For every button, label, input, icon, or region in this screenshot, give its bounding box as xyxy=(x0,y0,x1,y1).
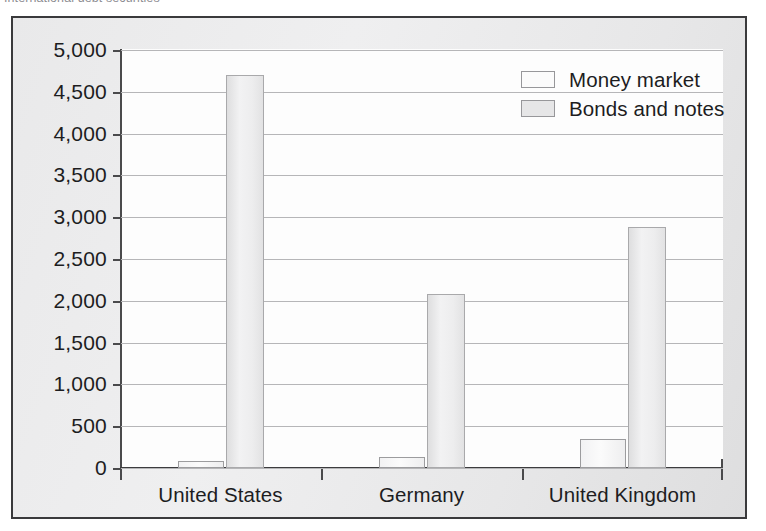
x-tick-mark xyxy=(321,469,323,480)
bar-united-kingdom-bonds-and-notes xyxy=(628,227,666,468)
x-tick-mark xyxy=(120,469,122,480)
y-tick-mark xyxy=(113,384,121,386)
y-tick-mark xyxy=(113,259,121,261)
y-tick-label: 2,000 xyxy=(53,289,107,313)
gridline xyxy=(120,217,723,218)
figure-caption-strip: International debt securities xyxy=(0,0,766,13)
x-category-label: United States xyxy=(158,483,282,507)
y-tick-label: 2,500 xyxy=(53,247,107,271)
bar-united-states-money-market xyxy=(178,461,224,468)
legend-item-money-market: Money market xyxy=(521,65,724,94)
y-tick-mark xyxy=(113,343,121,345)
legend-item-bonds-and-notes: Bonds and notes xyxy=(521,94,724,123)
y-tick-label: 5,000 xyxy=(53,38,107,62)
y-tick-label: 1,500 xyxy=(53,331,107,355)
y-tick-mark xyxy=(113,134,121,136)
y-tick-label: 4,500 xyxy=(53,80,107,104)
legend-swatch-icon xyxy=(521,100,555,117)
legend-label: Bonds and notes xyxy=(569,97,724,121)
x-tick-mark xyxy=(721,469,723,480)
chart-figure-frame: 05001,0001,5002,0002,5003,0003,5004,0004… xyxy=(11,16,747,519)
y-tick-label: 1,000 xyxy=(53,372,107,396)
x-category-label: United Kingdom xyxy=(549,483,696,507)
y-tick-label: 3,500 xyxy=(53,163,107,187)
y-tick-label: 500 xyxy=(71,414,107,438)
y-tick-label: 3,000 xyxy=(53,205,107,229)
legend-label: Money market xyxy=(569,68,700,92)
legend-swatch-icon xyxy=(521,71,555,88)
chart-legend: Money marketBonds and notes xyxy=(521,65,724,123)
y-tick-mark xyxy=(113,426,121,428)
gridline xyxy=(120,134,723,135)
y-tick-label: 0 xyxy=(95,456,107,480)
y-tick-mark xyxy=(113,217,121,219)
gridline xyxy=(120,175,723,176)
gridline xyxy=(120,50,723,51)
figure-caption-text: International debt securities xyxy=(4,0,160,5)
y-tick-mark xyxy=(113,175,121,177)
bar-united-states-bonds-and-notes xyxy=(226,75,264,468)
x-tick-mark xyxy=(522,469,524,480)
bar-united-kingdom-money-market xyxy=(580,439,626,468)
bar-germany-money-market xyxy=(379,457,425,468)
bar-germany-bonds-and-notes xyxy=(427,294,465,468)
y-tick-mark xyxy=(113,92,121,94)
y-tick-label: 4,000 xyxy=(53,122,107,146)
gridline xyxy=(120,468,723,469)
y-tick-mark xyxy=(113,301,121,303)
y-tick-mark xyxy=(113,50,121,52)
x-category-label: Germany xyxy=(379,483,464,507)
